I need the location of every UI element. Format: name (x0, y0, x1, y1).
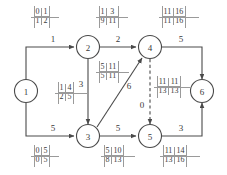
grid-line-mid (55, 93, 87, 94)
grid-line-mid (96, 17, 128, 18)
time-table-edge-3-4-ls: 5 (99, 72, 107, 81)
node-3-label: 3 (86, 132, 91, 142)
grid-line-mid (154, 87, 192, 88)
time-table-edge-3-4: 5 11 5 11 (99, 63, 118, 80)
time-table-edge-2-3-lf: 5 (66, 93, 74, 102)
node-4[interactable]: 4 (139, 36, 162, 59)
time-table-edge-1-3-ls: 0 (34, 156, 42, 165)
node-2-label: 2 (86, 43, 91, 53)
edge-2-to-4-weight: 2 (116, 34, 121, 44)
time-table-edge-5-6-lf: 16 (175, 156, 187, 165)
grid-line-mid (96, 72, 129, 73)
node-4-label: 4 (148, 43, 153, 53)
node-6-label: 6 (200, 87, 205, 97)
node-1[interactable]: 1 (15, 80, 38, 103)
node-2[interactable]: 2 (77, 36, 100, 59)
time-table-edge-5-6: 11 14 13 16 (163, 147, 186, 164)
time-table-edge-4-5-ls: 13 (157, 87, 169, 96)
time-table-edge-3-4-lf: 11 (107, 72, 118, 81)
grid-line-mid (160, 156, 200, 157)
time-table-edge-1-2-lf: 2 (42, 17, 50, 26)
time-table-edge-4-6-ls: 11 (162, 17, 173, 26)
grid-line-mid (159, 17, 199, 18)
edge-1-to-2-line (26, 47, 74, 80)
edge-1-to-2-weight: 1 (51, 34, 56, 44)
edge-1-to-3-weight: 5 (51, 123, 56, 133)
edge-5-to-6: 3 (162, 103, 202, 136)
edge-1-to-3: 5 (26, 103, 74, 136)
time-table-edge-4-5: 11 11 13 13 (157, 78, 180, 95)
edge-3-to-4-weight: 6 (127, 81, 132, 91)
edge-4-to-6: 5 (162, 34, 202, 79)
edge-2-to-3-weight: 3 (79, 79, 84, 89)
time-table-edge-2-4-lf: 11 (107, 17, 118, 26)
edge-4-to-6-weight: 5 (179, 34, 184, 44)
time-table-edge-2-3-ls: 2 (58, 93, 66, 102)
time-table-edge-1-3: 0 5 0 5 (34, 147, 49, 164)
time-table-edge-2-3: 1 4 2 5 (58, 84, 73, 101)
time-table-edge-3-5-ls: 8 (104, 156, 112, 165)
node-6[interactable]: 6 (191, 80, 214, 103)
edge-3-to-5: 5 (100, 123, 136, 136)
edge-5-to-6-weight: 3 (179, 123, 184, 133)
time-table-edge-1-2: 0 1 1 2 (34, 8, 49, 25)
time-table-edge-4-5-lf: 13 (169, 87, 181, 96)
node-5[interactable]: 5 (139, 125, 162, 148)
grid-line-mid (101, 156, 135, 157)
grid-line-mid (31, 17, 59, 18)
edge-4-to-5-weight: 0 (140, 100, 145, 110)
node-5-label: 5 (148, 132, 153, 142)
edge-4-to-6-line (162, 47, 202, 79)
grid-line-mid (31, 156, 59, 157)
time-table-edge-4-6-lf: 16 (173, 17, 185, 26)
node-3[interactable]: 3 (77, 125, 100, 148)
time-table-edge-1-3-lf: 5 (42, 156, 50, 165)
time-table-edge-3-5: 5 10 8 13 (104, 147, 123, 164)
edge-1-to-2: 1 (26, 34, 74, 80)
time-table-edge-5-6-ls: 13 (163, 156, 175, 165)
time-table-edge-4-6: 11 16 11 16 (162, 8, 185, 25)
time-table-edge-3-5-lf: 13 (112, 156, 124, 165)
edge-2-to-3: 3 (79, 59, 88, 124)
time-table-edge-2-4: 1 3 9 11 (99, 8, 118, 25)
time-table-edge-2-4-ls: 9 (99, 17, 107, 26)
diagram-canvas: 1 2 5 3 6 0 5 (0, 0, 227, 175)
node-1-label: 1 (24, 87, 29, 97)
edge-3-to-5-weight: 5 (116, 123, 121, 133)
edge-2-to-4: 2 (100, 34, 136, 47)
edge-4-to-5: 0 (140, 59, 150, 124)
time-table-edge-1-2-ls: 1 (34, 17, 42, 26)
